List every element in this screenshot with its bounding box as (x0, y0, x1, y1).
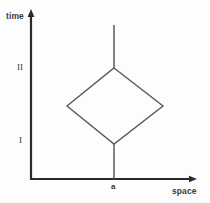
causal-diamond (67, 68, 163, 144)
spacetime-diagram: time space II I a (0, 0, 210, 203)
time-axis-label: time (6, 12, 24, 21)
region-label-two: II (17, 63, 23, 72)
space-axis-label: space (172, 187, 197, 196)
point-label-a: a (111, 183, 116, 191)
diagram-canvas (0, 0, 210, 203)
region-label-one: I (19, 136, 22, 145)
space-axis-arrowhead (189, 176, 197, 182)
time-axis-arrowhead (28, 9, 35, 17)
